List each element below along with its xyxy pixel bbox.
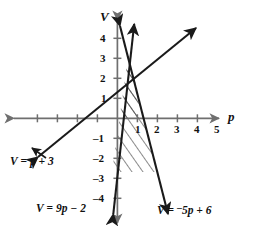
x-axis-label: p (228, 110, 235, 123)
y-tick-label-2: 2 (100, 73, 106, 84)
graph-figure: V p 4 3 2 1 –1 –2 –3 –4 1 2 3 4 5 V = p … (0, 0, 259, 234)
equation-3-variable: V (157, 204, 165, 216)
equation-label-v-equals-p-plus-3: V = p + 3 (10, 156, 54, 168)
x-tick-label-5: 5 (214, 124, 220, 135)
y-axis-label: V (100, 10, 109, 23)
y-tick-label-minus-2: –2 (93, 153, 104, 164)
x-tick-label-4: 4 (194, 124, 200, 135)
equation-1-expression: p + 3 (30, 155, 54, 167)
equation-3-equals: = (168, 204, 175, 216)
y-tick-label-3: 3 (100, 53, 106, 64)
y-tick-label-minus-4: –4 (93, 193, 104, 204)
y-tick-label-minus-3: –3 (93, 173, 104, 184)
equation-2-expression: 9p − 2 (56, 202, 86, 214)
equation-2-variable: V (36, 202, 44, 214)
coordinate-plane-svg (0, 0, 259, 234)
y-tick-label-minus-1: –1 (93, 133, 104, 144)
equation-3-expression: 5p + 6 (182, 204, 212, 216)
x-tick-label-2: 2 (154, 124, 160, 135)
x-tick-label-3: 3 (174, 124, 180, 135)
equation-2-equals: = (47, 202, 54, 214)
equation-1-variable: V (10, 155, 18, 167)
y-tick-label-4: 4 (100, 33, 106, 44)
x-tick-label-1: 1 (135, 124, 141, 135)
x-axis (14, 114, 219, 122)
equation-label-v-equals-negative-5p-plus-6: V = –5p + 6 (157, 203, 211, 217)
equation-label-v-equals-9p-minus-2: V = 9p − 2 (36, 203, 86, 215)
y-tick-label-1: 1 (101, 93, 107, 104)
equation-1-equals: = (21, 155, 28, 167)
